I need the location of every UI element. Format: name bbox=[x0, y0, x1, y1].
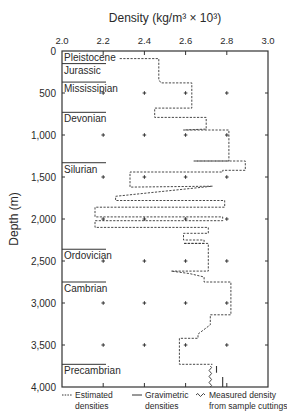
stratum-label: Pleistocene bbox=[64, 52, 116, 63]
y-axis-title: Depth (m) bbox=[7, 192, 21, 245]
y-tick-label: 3,500 bbox=[31, 340, 56, 351]
legend-label: Gravimetric bbox=[145, 390, 189, 400]
legend-label: Estimated bbox=[75, 390, 113, 400]
x-axis-title: Density (kg/m³ × 10³) bbox=[109, 11, 221, 25]
x-tick-label: 2.2 bbox=[97, 35, 110, 46]
y-tick-label: 500 bbox=[39, 88, 56, 99]
legend-label: densities bbox=[145, 401, 179, 411]
stratum-label: Precambrian bbox=[64, 365, 121, 376]
y-tick-label: 2,500 bbox=[31, 256, 56, 267]
x-tick-label: 2.4 bbox=[138, 35, 151, 46]
legend: EstimateddensitiesGravimetricdensitiesMe… bbox=[62, 390, 287, 411]
density-depth-chart: Density (kg/m³ × 10³) Depth (m) 2.02.22.… bbox=[0, 0, 287, 420]
y-tick-label: 0 bbox=[50, 46, 56, 57]
grid-crosses bbox=[101, 91, 228, 347]
strata-labels: PleistoceneJurassicMississipianDevonianS… bbox=[62, 52, 121, 376]
x-tick-label: 3.0 bbox=[261, 35, 274, 46]
stratum-label: Devonian bbox=[64, 113, 106, 124]
stratum-label: Ordovician bbox=[64, 250, 112, 261]
y-tick-label: 3,000 bbox=[31, 298, 56, 309]
x-tick-label: 2.0 bbox=[55, 35, 68, 46]
x-tick-label: 2.6 bbox=[179, 35, 192, 46]
legend-label: from sample cuttings bbox=[209, 401, 287, 411]
estimated-density-line bbox=[95, 59, 245, 365]
x-tick-label: 2.8 bbox=[220, 35, 233, 46]
data-series bbox=[95, 59, 245, 387]
y-tick-label: 4,000 bbox=[31, 382, 56, 393]
measured-density-line bbox=[209, 366, 212, 387]
y-tick-label: 1,500 bbox=[31, 172, 56, 183]
y-tick-label: 2,000 bbox=[31, 214, 56, 225]
stratum-label: Silurian bbox=[64, 164, 97, 175]
legend-label: densities bbox=[75, 401, 109, 411]
stratum-label: Cambrian bbox=[64, 283, 107, 294]
legend-label: Measured density bbox=[209, 390, 277, 400]
y-tick-labels: 05001,0001,5002,0002,5003,0003,5004,000 bbox=[31, 46, 268, 393]
stratum-label: Mississipian bbox=[64, 83, 118, 94]
y-tick-label: 1,000 bbox=[31, 130, 56, 141]
plot-frame bbox=[62, 51, 268, 387]
stratum-label: Jurassic bbox=[64, 65, 101, 76]
